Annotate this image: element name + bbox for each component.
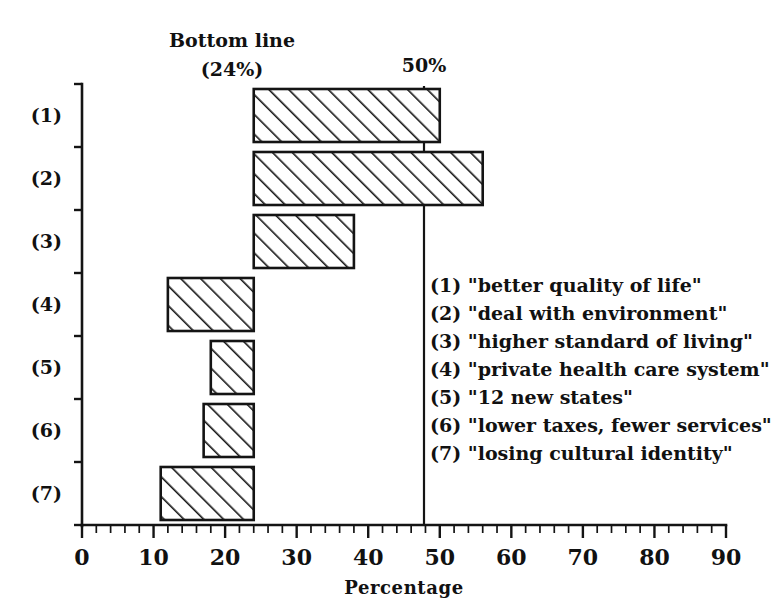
category-label-7: (7)	[31, 482, 62, 504]
bar-5	[211, 341, 254, 394]
category-label-3: (3)	[31, 230, 62, 252]
x-tick-label-10: 10	[138, 544, 169, 570]
x-tick-label-0: 0	[74, 544, 89, 570]
x-tick-label-90: 90	[711, 544, 742, 570]
x-tick-label-70: 70	[568, 544, 599, 570]
x-tick-label-60: 60	[496, 544, 527, 570]
legend-item-1: (1) "better quality of life"	[430, 274, 702, 296]
legend: (1) "better quality of life" (2) "deal w…	[430, 274, 772, 464]
x-tick-label-50: 50	[424, 544, 455, 570]
bottom-line-label-2: (24%)	[201, 58, 263, 80]
bottom-line-label-1: Bottom line	[169, 29, 295, 51]
category-label-4: (4)	[31, 293, 62, 315]
x-axis-title: Percentage	[344, 577, 464, 598]
category-label-6: (6)	[31, 419, 62, 441]
category-label-5: (5)	[31, 356, 62, 378]
bar-3	[254, 215, 354, 268]
category-label-1: (1)	[31, 104, 62, 126]
legend-item-6: (6) "lower taxes, fewer services"	[430, 414, 772, 436]
category-label-2: (2)	[31, 167, 62, 189]
x-tick-label-20: 20	[210, 544, 241, 570]
legend-item-4: (4) "private health care system"	[430, 358, 770, 380]
bar-7	[161, 467, 254, 520]
legend-item-2: (2) "deal with environment"	[430, 302, 727, 324]
fifty-percent-label: 50%	[402, 54, 447, 76]
bar-4	[168, 278, 254, 331]
legend-item-3: (3) "higher standard of living"	[430, 330, 753, 352]
x-tick-label-30: 30	[281, 544, 312, 570]
legend-item-7: (7) "losing cultural identity"	[430, 442, 733, 464]
x-tick-label-80: 80	[639, 544, 670, 570]
legend-item-5: (5) "12 new states"	[430, 386, 633, 408]
bar-6	[204, 404, 254, 457]
horizontal-bar-chart: Bottom line (24%) 50% (1) (2) (3) (4) (5…	[0, 0, 773, 616]
chart-figure: Bottom line (24%) 50% (1) (2) (3) (4) (5…	[0, 0, 773, 616]
bar-2	[254, 152, 483, 205]
x-tick-label-40: 40	[353, 544, 384, 570]
bar-1	[254, 89, 440, 142]
